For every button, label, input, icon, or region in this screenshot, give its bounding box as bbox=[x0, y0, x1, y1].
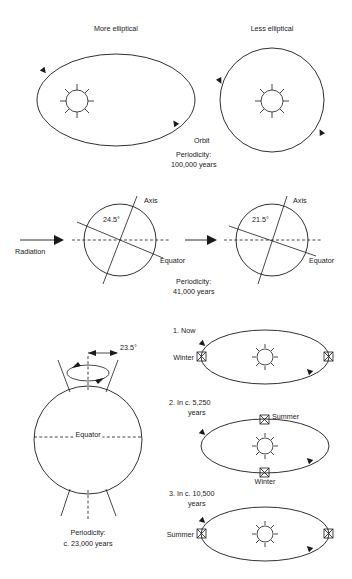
stage-1-left-season: Winter bbox=[173, 353, 194, 363]
stage-3-left-season: Summer bbox=[167, 530, 194, 540]
sun-icon-right bbox=[255, 84, 289, 118]
axis-label-right: Axis bbox=[293, 196, 307, 206]
wobble-arrow-icon bbox=[95, 378, 104, 384]
equator-label-right: Equator bbox=[309, 256, 334, 266]
stage-2-title-line1: 2. In c. 5,250 bbox=[169, 398, 211, 408]
obliquity-periodicity-line1: Periodicity: bbox=[176, 277, 211, 287]
obliquity-angle-right: 21.5° bbox=[252, 215, 269, 225]
stage-2-top-season: Summer bbox=[272, 412, 299, 422]
radiation-label: Radiation bbox=[15, 247, 45, 257]
obliquity-globe-left bbox=[72, 196, 170, 284]
orbit-label: Orbit bbox=[194, 136, 210, 146]
obliquity-globe-right bbox=[224, 196, 322, 284]
equator-label-left: Equator bbox=[160, 256, 185, 266]
stage3-arrow-lower-right-icon bbox=[305, 544, 313, 552]
equator-line-right bbox=[229, 226, 316, 256]
earth-marker-stage2-top bbox=[260, 415, 269, 424]
precession-periodicity-line2: c. 23,000 years bbox=[63, 539, 112, 549]
stage-3-orbit bbox=[197, 507, 333, 561]
precession-periodicity-line1: Periodicity: bbox=[70, 528, 105, 538]
obliquity-angle-left: 24.5° bbox=[103, 215, 120, 225]
stage-2-title-line2: years bbox=[188, 408, 206, 418]
elliptical-orbit-path bbox=[37, 54, 195, 146]
obliquity-periodicity-line2: 41,000 years bbox=[173, 287, 215, 297]
radiation-arrow-icon bbox=[20, 235, 64, 245]
circular-orbit-path bbox=[220, 48, 324, 152]
precession-ray-right bbox=[106, 489, 116, 516]
precession-angle-label: 23.5° bbox=[120, 343, 137, 353]
stage1-arrow-lower-right-icon bbox=[305, 367, 313, 375]
axis-label-left: Axis bbox=[144, 196, 158, 206]
orbit-arrow-lower-right-icon bbox=[171, 119, 179, 127]
sun-icon-stage2 bbox=[252, 433, 278, 459]
stage-2-bottom-season: Winter bbox=[255, 477, 276, 487]
stage-1-title: 1. Now bbox=[173, 326, 195, 336]
stage-3-title-line2: years bbox=[188, 499, 206, 509]
orbit-arrow-upper-left-icon bbox=[40, 67, 48, 75]
stage-1-orbit bbox=[197, 330, 333, 384]
precession-equator-label: Equator bbox=[73, 430, 102, 440]
radiation-arrow-icon-middle bbox=[185, 235, 217, 245]
sun-icon-stage3 bbox=[252, 521, 278, 547]
wobble-arrow-icon-2 bbox=[72, 362, 81, 368]
precession-ray-left bbox=[61, 489, 70, 516]
sun-icon-stage1 bbox=[252, 344, 278, 370]
stage-2-orbit bbox=[199, 415, 329, 477]
stage2-arrow-lower-right-icon bbox=[305, 456, 313, 464]
stage-3-title-line1: 3. In c. 10,500 bbox=[169, 489, 215, 499]
sun-icon-left bbox=[60, 84, 94, 118]
circular-orbit-arrow-lower-right-icon bbox=[317, 128, 325, 136]
earth-marker-stage2-bottom bbox=[260, 468, 269, 477]
eccentricity-periodicity-line2: 100,000 years bbox=[171, 160, 217, 170]
eccentricity-periodicity-line1: Periodicity: bbox=[176, 150, 211, 160]
